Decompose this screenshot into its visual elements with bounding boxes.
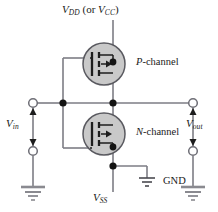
input-node-dot [59,99,66,106]
vss-symbol: V [93,191,100,203]
output-node-dot [109,99,116,106]
p-channel-suffix: -channel [142,56,178,67]
supply-or-text: (or [80,3,98,15]
pmos-drain-junction-dot [110,59,117,66]
vin-symbol: V [6,117,13,129]
vin-arrowhead-up [30,108,37,115]
vin-terminal-top [29,99,38,108]
supply-close-paren: ) [115,3,119,15]
vin-arrowhead-down [30,139,37,146]
cmos-inverter-figure: VDD (or VCC) P-channel N-channel Vin Vou… [0,0,218,212]
n-channel-mosfet [83,113,125,155]
supply-symbol: V [62,3,69,15]
vout-arrowhead-down [190,139,197,146]
gnd-symbol [139,178,155,186]
vss-label: VSS [93,192,107,205]
vout-ground-symbol [181,187,205,200]
ground-node-dot [109,162,116,169]
vout-subscript: out [193,122,203,131]
n-channel-label: N-channel [136,127,179,138]
p-channel-label: P-channel [136,57,179,68]
supply-alt-subscript: CC [105,8,115,17]
vout-label: Vout [186,118,203,131]
n-channel-suffix: -channel [143,126,179,137]
supply-label: VDD (or VCC) [62,4,119,17]
gnd-label: GND [163,176,186,187]
vout-symbol: V [186,117,193,129]
vout-arrowhead-up [190,108,197,115]
vss-subscript: SS [100,196,108,205]
vin-subscript: in [13,122,19,131]
supply-alt-symbol: V [98,3,105,15]
vin-ground-symbol [21,187,45,200]
n-channel-prefix: N [136,126,143,137]
supply-subscript: DD [69,8,80,17]
vin-terminal-bottom [29,147,38,156]
nmos-source-junction-dot [110,144,117,151]
vin-label: Vin [6,118,19,131]
vout-terminal-top [189,99,198,108]
vout-terminal-bottom [189,147,198,156]
p-channel-mosfet [83,43,125,85]
